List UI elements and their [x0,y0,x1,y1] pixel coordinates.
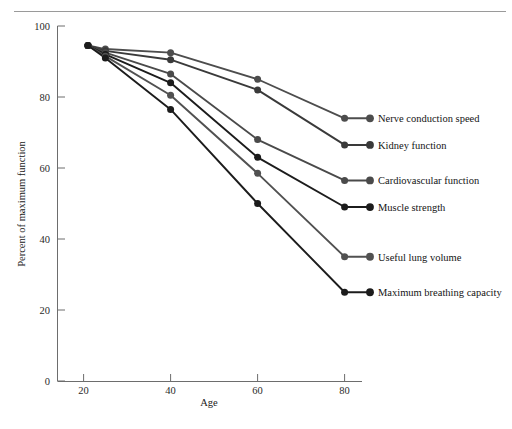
y-tick-label: 100 [34,21,50,32]
series-line [88,46,345,257]
data-point-marker [254,86,261,93]
data-point-marker [341,177,348,184]
data-point-marker [254,136,261,143]
data-point-marker [254,200,261,207]
data-point-marker [84,42,91,49]
series-label: Nerve conduction speed [378,113,480,124]
series-label: Useful lung volume [378,252,462,263]
y-tick-label: 80 [40,92,51,103]
data-point-marker [341,289,348,296]
x-tick-label: 20 [78,385,89,396]
series-label-bullet [366,177,374,185]
x-tick-label: 40 [165,385,176,396]
data-point-marker [167,56,174,63]
x-axis-ticks: 20406080 [78,374,350,396]
series-label-bullet [366,114,374,122]
data-point-marker [102,54,109,61]
figure-container: 020406080100 20406080 Nerve conduction s… [0,0,512,429]
x-axis-title: Age [200,397,218,408]
line-chart: 020406080100 20406080 Nerve conduction s… [0,0,512,429]
series-label-bullet [366,288,374,296]
y-axis-ticks: 020406080100 [34,21,65,387]
data-point-marker [167,79,174,86]
data-point-marker [254,154,261,161]
data-point-marker [341,115,348,122]
x-tick-label: 80 [339,385,350,396]
y-axis-title: Percent of maximum function [16,140,27,266]
series-label: Cardiovascular function [378,175,480,186]
series-label: Muscle strength [378,202,446,213]
x-tick-label: 60 [252,385,263,396]
series-line [88,46,345,293]
series-label: Maximum breathing capacity [378,287,502,298]
data-point-marker [254,170,261,177]
y-tick-label: 40 [40,234,51,245]
series-label-bullet [366,141,374,149]
series-label-bullet [366,253,374,261]
y-tick-label: 20 [40,305,51,316]
series-lines-group [88,46,370,293]
y-tick-label: 60 [40,163,51,174]
data-point-marker [341,141,348,148]
data-point-marker [254,76,261,83]
y-tick-label: 0 [45,376,50,387]
data-point-marker [341,253,348,260]
data-point-marker [167,106,174,113]
data-point-marker [167,70,174,77]
series-labels-group: Nerve conduction speedKidney functionCar… [378,113,502,298]
data-point-marker [341,204,348,211]
series-label: Kidney function [378,140,447,151]
series-label-bullet [366,203,374,211]
data-point-marker [167,92,174,99]
data-point-marker [167,49,174,56]
